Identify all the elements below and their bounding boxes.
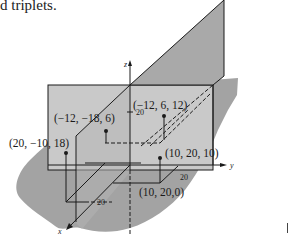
- point-neg12-6-12: [162, 114, 166, 118]
- point-20-neg10-18: [64, 151, 68, 155]
- label-point-10-20-10: (10, 20, 10): [165, 147, 219, 160]
- tilted-plane: [130, 0, 224, 85]
- z-axis-label: z: [123, 60, 128, 69]
- label-point-neg12-6-12: (−12, 6, 12): [133, 99, 188, 112]
- label-point-10-20-0: (10, 20,0): [139, 186, 184, 199]
- page-edge-mark: [287, 223, 288, 233]
- x-axis-label: x: [57, 227, 62, 236]
- label-point-neg12-neg18-6: (−12, −18, 6): [54, 112, 115, 125]
- label-point-20-neg10-18: (20, −10, 18): [9, 137, 69, 150]
- coordinate-diagram: z 20 y 20 x 20: [0, 0, 290, 236]
- y-tick-label: 20: [180, 173, 188, 182]
- point-10-20-10: [158, 156, 162, 160]
- point-neg12-neg18-6: [104, 129, 108, 133]
- y-axis-label: y: [229, 161, 234, 170]
